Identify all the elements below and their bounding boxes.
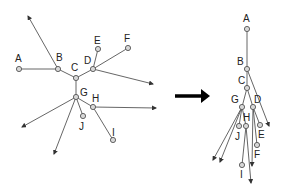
left-node-j — [80, 113, 85, 118]
left-node-i — [110, 137, 115, 142]
left-arrow-b-0 — [28, 16, 58, 69]
left-node-f — [125, 45, 130, 50]
left-label-g: G — [80, 87, 88, 98]
left-label-d: D — [84, 55, 91, 66]
right-node-h — [243, 123, 248, 128]
left-node-c — [73, 75, 78, 80]
left-node-e — [95, 46, 100, 51]
left-arrow-d-1 — [93, 69, 153, 84]
left-arrow-g-4 — [54, 97, 76, 154]
right-edge-h-i — [242, 126, 246, 165]
right-label-b: B — [237, 56, 244, 67]
left-node-d — [90, 66, 95, 71]
right-label-e: E — [258, 129, 265, 140]
right-label-c: C — [238, 75, 245, 86]
left-arrow-g-3 — [22, 97, 76, 127]
right-tree: ABCGDHJEFI — [213, 13, 269, 183]
right-node-f — [254, 142, 259, 147]
right-arrow-h-4 — [246, 126, 251, 183]
right-node-j — [236, 123, 241, 128]
right-node-c — [244, 85, 249, 90]
right-node-a — [244, 26, 249, 31]
right-label-a: A — [243, 13, 250, 24]
right-label-i: I — [240, 169, 243, 180]
left-node-a — [16, 66, 21, 71]
right-node-d — [250, 104, 255, 109]
right-label-j: J — [235, 131, 240, 142]
tree-transformation-diagram: ABCDEFGHJI ABCGDHJEFI — [0, 0, 285, 185]
right-node-g — [239, 104, 244, 109]
right-node-b — [244, 66, 249, 71]
left-label-a: A — [15, 53, 22, 64]
left-node-h — [90, 104, 95, 109]
left-tree: ABCDEFGHJI — [15, 16, 156, 154]
left-label-b: B — [56, 52, 63, 63]
right-label-h: H — [243, 112, 250, 123]
right-label-f: F — [254, 149, 260, 160]
right-node-i — [239, 162, 244, 167]
right-label-g: G — [231, 94, 239, 105]
left-label-f: F — [124, 33, 130, 44]
left-arrow-h-2 — [93, 107, 156, 108]
right-arrow-d-3 — [252, 107, 253, 166]
left-edge-h-i — [93, 107, 113, 140]
left-label-h: H — [92, 93, 99, 104]
left-label-i: I — [112, 127, 115, 138]
left-label-j: J — [79, 121, 84, 132]
transform-arrow — [175, 89, 210, 103]
left-label-e: E — [94, 35, 101, 46]
left-node-g — [73, 94, 78, 99]
right-node-e — [257, 122, 262, 127]
transform-arrow-head-icon — [201, 89, 210, 103]
left-label-c: C — [71, 62, 78, 73]
left-node-b — [55, 66, 60, 71]
right-label-d: D — [254, 94, 261, 105]
